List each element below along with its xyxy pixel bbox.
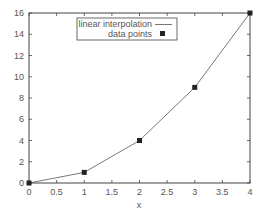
x-axis-label: x (137, 200, 142, 210)
x-tick-label: 0.5 (50, 187, 63, 197)
y-tick-label: 6 (19, 114, 24, 124)
x-tick-label: 4 (247, 187, 252, 197)
legend-label-line: linear interpolation (78, 19, 152, 29)
x-tick-label: 2.5 (161, 187, 174, 197)
x-tick-label: 1 (82, 187, 87, 197)
data-point-marker (137, 138, 142, 143)
data-point-marker (27, 181, 32, 186)
legend-square-marker (160, 31, 165, 36)
y-tick-label: 4 (19, 136, 24, 146)
x-tick-label: 2 (137, 187, 142, 197)
y-tick-label: 8 (19, 93, 24, 103)
x-tick-label: 3 (192, 187, 197, 197)
y-tick-label: 0 (19, 178, 24, 188)
y-tick-label: 2 (19, 157, 24, 167)
chart: 00.511.522.533.540246810121416 linear in… (0, 0, 267, 219)
x-tick-label: 3.5 (216, 187, 229, 197)
data-point-marker (192, 85, 197, 90)
y-tick-label: 12 (14, 51, 24, 61)
data-point-marker (248, 11, 253, 16)
data-point-marker (82, 170, 87, 175)
y-tick-label: 14 (14, 29, 24, 39)
y-tick-label: 16 (14, 8, 24, 18)
x-tick-label: 0 (26, 187, 31, 197)
y-tick-label: 10 (14, 72, 24, 82)
legend-label-points: data points (108, 29, 153, 39)
x-tick-label: 1.5 (106, 187, 119, 197)
legend: linear interpolation data points (77, 18, 177, 40)
